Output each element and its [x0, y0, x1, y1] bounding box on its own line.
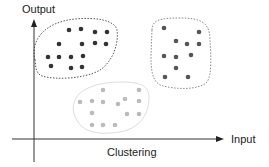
cluster-1-point	[49, 64, 54, 69]
cluster-1-point	[57, 42, 62, 47]
cluster-3-point	[78, 100, 83, 105]
cluster-2-point	[186, 75, 191, 80]
cluster-3-point	[113, 123, 118, 128]
cluster-1-point	[69, 55, 74, 60]
cluster-1-point	[93, 30, 98, 35]
cluster-3-point	[90, 111, 95, 116]
cluster-2-point	[163, 75, 168, 80]
cluster-2-point	[162, 54, 167, 59]
cluster-1-point	[93, 41, 98, 46]
cluster-3-point	[123, 97, 128, 102]
cluster-2-point	[174, 55, 179, 60]
cluster-3-point	[116, 102, 121, 107]
cluster-3-point	[137, 112, 142, 117]
cluster-2-boundary	[151, 18, 211, 88]
cluster-3-point	[90, 123, 95, 128]
cluster-1-point	[67, 28, 72, 33]
cluster-1-point	[105, 30, 110, 35]
cluster-2-point	[174, 39, 179, 44]
cluster-3-point	[101, 100, 106, 105]
cluster-3-point	[137, 99, 142, 104]
cluster-2-point	[197, 30, 202, 35]
cluster-2-point	[197, 42, 202, 47]
cluster-points	[46, 26, 202, 128]
diagram-title: Clustering	[107, 147, 157, 158]
x-axis-label: Input	[231, 134, 255, 145]
cluster-3-point	[101, 88, 106, 93]
cluster-2-point	[162, 26, 167, 31]
clustering-diagram	[0, 0, 269, 167]
cluster-1-point	[80, 65, 85, 70]
cluster-3-point	[101, 123, 106, 128]
cluster-3-point	[137, 88, 142, 93]
cluster-1-point	[79, 27, 84, 32]
cluster-1-point	[81, 54, 86, 59]
cluster-1-point	[69, 66, 74, 71]
cluster-2-point	[174, 66, 179, 71]
y-axis-arrow-icon	[31, 19, 37, 27]
cluster-1-point	[80, 42, 85, 47]
cluster-3-point	[125, 112, 130, 117]
cluster-1-point	[104, 42, 109, 47]
cluster-2-point	[185, 42, 190, 47]
x-axis-arrow-icon	[216, 136, 224, 142]
cluster-1-point	[46, 55, 51, 60]
y-axis-label: Output	[22, 4, 55, 15]
cluster-1-boundary	[34, 18, 117, 78]
cluster-2-point	[189, 53, 194, 58]
cluster-3-point	[90, 99, 95, 104]
cluster-1-point	[57, 55, 62, 60]
